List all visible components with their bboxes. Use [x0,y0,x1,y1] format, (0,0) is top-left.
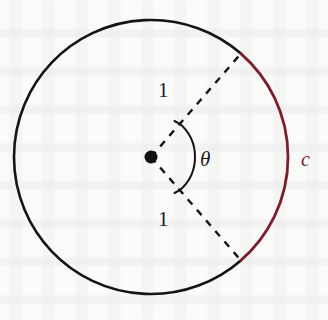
angle-arc-tick-lower [175,190,180,193]
radius-lower-label: 1 [158,209,169,230]
theta-symbol-label: θ [200,149,210,170]
center-point-dot [145,151,158,164]
arc-c-label: c [301,149,310,169]
circle-diagram [0,0,328,320]
angle-arc-tick-upper [175,121,180,124]
angle-theta-arc [180,124,195,190]
radius-upper-label: 1 [158,80,169,101]
arc-c-highlight [241,54,288,261]
figure-canvas: 1 1 θ c [0,0,328,320]
radius-upper-line [151,54,241,157]
